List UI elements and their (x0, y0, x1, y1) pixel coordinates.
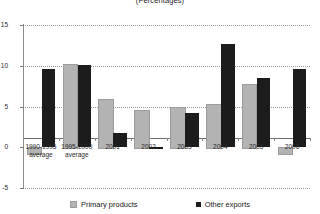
x-axis-tick (202, 138, 203, 141)
x-axis-category-label: 2004 (202, 143, 238, 151)
y-axis-tick-label: 0 (0, 143, 8, 150)
x-axis-category-label: 2005 (238, 143, 274, 151)
bar-chart: (Percentages) -5051015 1990-1995 average… (0, 0, 320, 214)
bar-other-exports (42, 69, 56, 147)
x-axis-tick (59, 138, 60, 141)
gridline (23, 188, 310, 189)
chart-legend: Primary productsOther exports (0, 200, 320, 209)
legend-swatch-icon (196, 202, 201, 207)
x-axis-category-label: 2006 (274, 143, 310, 151)
x-axis-category-label: 1995-2000 average (59, 143, 95, 159)
x-axis-category-label: 1990-1995 average (23, 143, 59, 159)
bar-primary-products (63, 64, 79, 149)
x-axis-tick (310, 138, 311, 141)
y-axis-tick-label: 15 (0, 21, 8, 28)
legend-item[interactable]: Primary products (70, 200, 138, 209)
x-axis-category-label: 2001 (95, 143, 131, 151)
chart-title: (Percentages) (0, 0, 320, 6)
x-axis-tick (23, 138, 24, 141)
x-axis-category-label: 2002 (131, 143, 167, 151)
bar-other-exports (293, 69, 307, 147)
y-axis-tick (20, 107, 24, 108)
legend-label: Primary products (81, 200, 138, 209)
y-axis-tick (20, 188, 24, 189)
bar-other-exports (257, 78, 271, 147)
bar-primary-products (242, 84, 258, 149)
bar-other-exports (221, 44, 235, 148)
gridline (23, 25, 310, 26)
legend-label: Other exports (205, 200, 250, 209)
x-axis-tick (167, 138, 168, 141)
y-axis-tick-label: 5 (0, 103, 8, 110)
bar-other-exports (78, 65, 92, 147)
y-axis-tick (20, 25, 24, 26)
y-axis-tick-label: 10 (0, 62, 8, 69)
x-axis-category-label: 2003 (167, 143, 203, 151)
x-axis-tick (238, 138, 239, 141)
y-axis-tick (20, 66, 24, 67)
legend-item[interactable]: Other exports (196, 200, 250, 209)
x-axis-tick (131, 138, 132, 141)
x-axis-labels: 1990-1995 average1995-2000 average200120… (23, 143, 310, 167)
x-axis-tick (274, 138, 275, 141)
x-axis-tick (95, 138, 96, 141)
y-axis-tick-label: -5 (0, 184, 8, 191)
bar-primary-products (98, 99, 114, 149)
legend-swatch-icon (70, 201, 77, 208)
